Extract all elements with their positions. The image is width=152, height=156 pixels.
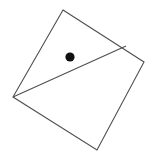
geometry-figure <box>0 0 152 156</box>
figure-canvas <box>0 0 152 156</box>
point-marker-dot <box>65 52 74 61</box>
rotated-square-outline <box>13 10 144 150</box>
